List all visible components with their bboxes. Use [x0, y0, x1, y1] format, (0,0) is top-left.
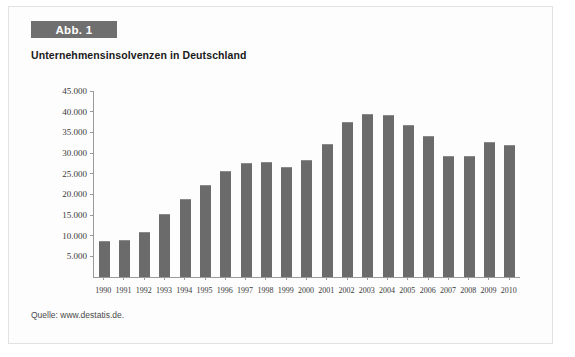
x-axis-slot: 2007: [438, 279, 458, 297]
x-axis-slot: 1995: [194, 279, 214, 297]
bar-slot: [500, 91, 520, 277]
x-axis-tick-label: 1995: [197, 286, 213, 295]
plot-wrapper: 45.00040.00035.00030.00025.00020.00015.0…: [31, 83, 531, 305]
x-axis-tick-mark: [306, 277, 307, 280]
bar: [261, 162, 272, 277]
x-axis-slot: 2000: [296, 279, 316, 297]
x-axis-slot: 2003: [357, 279, 377, 297]
x-axis-tick-label: 2006: [420, 286, 436, 295]
x-axis-slot: 2005: [397, 279, 417, 297]
x-axis-slot: 1997: [235, 279, 255, 297]
x-axis-slot: 2008: [458, 279, 478, 297]
bar: [362, 114, 373, 277]
x-axis-tick-mark: [245, 277, 246, 280]
y-axis-tick: 30.000: [62, 148, 94, 158]
bar-slot: [277, 91, 297, 277]
bar: [403, 125, 414, 277]
x-axis-tick-mark: [468, 277, 469, 280]
x-axis-slot: 1990: [93, 279, 113, 297]
bar-slot: [479, 91, 499, 277]
x-axis-slot: 1992: [134, 279, 154, 297]
bar: [504, 145, 515, 277]
bar-slot: [114, 91, 134, 277]
y-axis-tick: 40.000: [62, 107, 94, 117]
x-axis-slot: 1999: [276, 279, 296, 297]
bar: [159, 214, 170, 277]
x-axis-tick-mark: [387, 277, 388, 280]
bar-slot: [398, 91, 418, 277]
source-note: Quelle: www.destatis.de.: [31, 310, 124, 320]
bar: [281, 167, 292, 277]
x-axis-tick-mark: [326, 277, 327, 280]
x-axis-tick-label: 1994: [176, 286, 192, 295]
bar: [139, 232, 150, 277]
y-axis-tick-label: 35.000: [62, 127, 90, 137]
bar-slot: [175, 91, 195, 277]
chart-title: Unternehmensinsolvenzen in Deutschland: [31, 49, 247, 61]
bar-slot: [378, 91, 398, 277]
x-axis-tick-mark: [225, 277, 226, 280]
y-axis-tick-label: 45.000: [62, 86, 90, 96]
x-axis-tick-label: 1991: [115, 286, 131, 295]
x-axis-slot: 2009: [478, 279, 498, 297]
y-axis-tick-label: 15.000: [62, 210, 90, 220]
y-axis-tick: 45.000: [62, 86, 94, 96]
x-axis-tick-label: 1998: [257, 286, 273, 295]
x-axis-tick-mark: [184, 277, 185, 280]
bar: [464, 156, 475, 277]
x-axis-tick-label: 1990: [95, 286, 111, 295]
x-axis: 1990199119921993199419951996199719981999…: [93, 279, 519, 297]
x-axis-slot: 2002: [336, 279, 356, 297]
bar-slot: [358, 91, 378, 277]
x-axis-slot: 2001: [316, 279, 336, 297]
x-axis-tick-label: 1992: [136, 286, 152, 295]
y-axis-tick: 10.000: [62, 231, 94, 241]
bar-slot: [216, 91, 236, 277]
x-axis-tick-label: 2000: [298, 286, 314, 295]
y-axis-tick: 25.000: [62, 169, 94, 179]
y-axis-tick-label: 40.000: [62, 107, 90, 117]
y-axis-tick-label: 20.000: [62, 189, 90, 199]
y-axis-tick: 5.000: [67, 251, 94, 261]
bar: [383, 115, 394, 277]
x-axis-slot: 2006: [418, 279, 438, 297]
x-axis-tick-label: 2003: [359, 286, 375, 295]
x-axis-tick-mark: [488, 277, 489, 280]
x-axis-tick-label: 2009: [480, 286, 496, 295]
figure-container: Abb. 1 Unternehmensinsolvenzen in Deutsc…: [8, 6, 553, 344]
y-axis-tick: 20.000: [62, 189, 94, 199]
bar-slot: [236, 91, 256, 277]
figure-number-badge: Abb. 1: [31, 21, 117, 38]
bar-slot: [195, 91, 215, 277]
bar: [99, 241, 110, 277]
x-axis-slot: 1998: [255, 279, 275, 297]
x-axis-slot: 1993: [154, 279, 174, 297]
x-axis-tick-label: 2005: [399, 286, 415, 295]
y-axis-tick-label: 5.000: [67, 251, 90, 261]
y-axis-tick: 35.000: [62, 127, 94, 137]
x-axis-tick-label: 2001: [318, 286, 334, 295]
bar-slot: [94, 91, 114, 277]
bar-slot: [135, 91, 155, 277]
bar-slot: [256, 91, 276, 277]
x-axis-tick-mark: [367, 277, 368, 280]
x-axis-tick-mark: [123, 277, 124, 280]
bar-slot: [337, 91, 357, 277]
bar: [220, 171, 231, 277]
bar: [200, 185, 211, 277]
x-axis-slot: 2004: [377, 279, 397, 297]
x-axis-tick-mark: [407, 277, 408, 280]
x-axis-tick-mark: [448, 277, 449, 280]
bar-slot: [155, 91, 175, 277]
bar-slot: [419, 91, 439, 277]
bar: [484, 142, 495, 277]
x-axis-tick-label: 2004: [379, 286, 395, 295]
bar-slot: [459, 91, 479, 277]
bar: [241, 163, 252, 277]
bar-slot: [297, 91, 317, 277]
x-axis-tick-mark: [144, 277, 145, 280]
bar-slot: [439, 91, 459, 277]
bar: [342, 122, 353, 277]
y-axis-tick: 15.000: [62, 210, 94, 220]
x-axis-tick-mark: [164, 277, 165, 280]
